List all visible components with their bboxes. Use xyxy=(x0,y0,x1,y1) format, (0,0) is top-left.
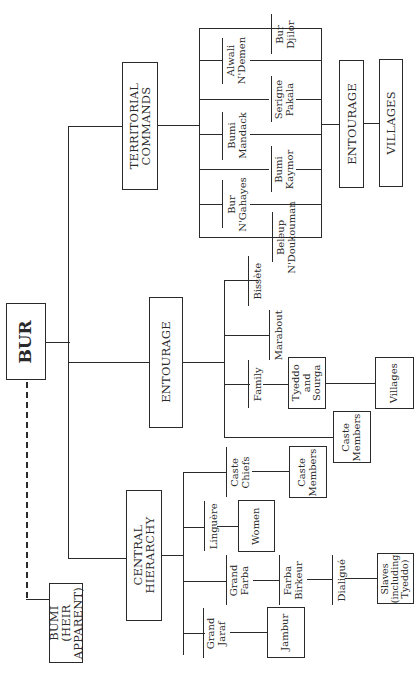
trunk-to-central xyxy=(68,558,102,559)
rung xyxy=(199,60,223,61)
rung xyxy=(199,99,269,100)
heir-connector xyxy=(26,599,50,600)
to-caste-chiefs xyxy=(183,472,227,473)
rung xyxy=(199,28,321,29)
trunk-to-entourage xyxy=(68,362,156,363)
central-out xyxy=(162,555,184,556)
slaves-label: Slaves (including Tyeddo) xyxy=(381,554,411,603)
dialigue-to-slaves xyxy=(345,578,377,579)
chiefs-to-members xyxy=(252,471,290,472)
to-marabout xyxy=(224,335,270,336)
rung xyxy=(296,99,321,100)
entourage-label: ENTOURAGE xyxy=(160,322,172,404)
family-to-tyeddo xyxy=(263,384,288,385)
women-label: Women xyxy=(251,507,262,544)
to-grand-jaraf xyxy=(183,633,205,634)
entourage-out xyxy=(183,362,225,363)
central-hierarchy-label: CENTRAL HIERARCHY xyxy=(132,517,156,594)
heir-dashed-link xyxy=(26,382,28,598)
territorial-in-line xyxy=(100,126,122,127)
heir-label: BUMI (HEIR APPARENT) xyxy=(48,587,84,659)
territorial-entourage-label: ENTOURAGE xyxy=(345,83,357,165)
entourage-bissete: Bissète xyxy=(253,263,264,300)
to-territorial-villages xyxy=(364,123,379,124)
trunk-to-territorial xyxy=(68,126,100,127)
bur-connector xyxy=(46,342,70,343)
command-bumi-kaymor: Bumi Kaymor xyxy=(275,149,296,188)
to-grand-farba xyxy=(183,581,227,582)
command-serigne-pakala: Serigne Pakala xyxy=(275,79,296,119)
commands-right-bracket xyxy=(321,28,322,238)
rung xyxy=(199,169,269,170)
jambur-label: Jambur xyxy=(281,614,292,651)
command-bumi-mandack: Bumi Mandack xyxy=(227,112,248,159)
dialigue-label: Dialigué xyxy=(337,559,348,601)
rung xyxy=(199,204,223,205)
territorial-commands-label: TERRITORIAL COMMANDS xyxy=(128,83,152,169)
rung xyxy=(296,169,321,170)
rung xyxy=(250,134,321,135)
to-caste-members-ent xyxy=(224,437,333,438)
entourage-villages-label: Villages xyxy=(389,363,400,403)
command-bur-ngahayes: Bur N'Gahayes xyxy=(227,177,248,232)
command-beleup-ndoukouman: Beleup N'Doukouman xyxy=(276,201,297,273)
command-bur-djilor: Bur Djilor xyxy=(275,20,296,48)
tyeddo-to-villages xyxy=(326,383,375,384)
rung xyxy=(199,134,223,135)
rung xyxy=(250,60,321,61)
fbirkeur-to-dialigue xyxy=(307,579,333,580)
caste-chiefs-label: Caste Chiefs xyxy=(230,456,251,488)
to-territorial-entourage xyxy=(321,124,339,125)
territorial-villages-label: VILLAGES xyxy=(385,91,397,155)
rung xyxy=(296,237,321,238)
command-alwali-ndemen: Alwali N'Demen xyxy=(227,36,248,83)
main-trunk xyxy=(68,126,69,559)
tyeddo-sourga-label: Tyeddo and Sourga xyxy=(291,364,323,401)
grand-jaraf-label: Grand Jaraf xyxy=(207,617,228,649)
entourage-caste-members-label: Caste Members xyxy=(342,413,363,461)
jaraf-to-jambur xyxy=(230,632,268,633)
central-in xyxy=(102,558,126,559)
gfarba-to-fbirkeur xyxy=(253,580,280,581)
farba-birkeur-label: Farba Birkeur xyxy=(283,561,304,600)
entourage-family: Family xyxy=(253,367,264,401)
entourage-trunk xyxy=(224,280,225,438)
linguere-to-women xyxy=(217,526,238,527)
entourage-marabout: Marabout xyxy=(274,310,285,360)
central-trunk xyxy=(183,472,184,655)
to-linguere xyxy=(183,527,205,528)
central-caste-members-label: Caste Members xyxy=(298,448,319,496)
territorial-out-line xyxy=(158,125,200,126)
bur-label: BUR xyxy=(17,320,35,363)
grand-farba-label: Grand Farba xyxy=(230,564,251,596)
to-family xyxy=(224,384,250,385)
